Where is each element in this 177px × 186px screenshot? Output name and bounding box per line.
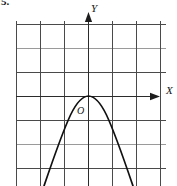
y-axis-label: Y <box>91 2 99 14</box>
x-axis-arrow-icon <box>150 93 160 100</box>
coordinate-plane: X Y O <box>0 0 177 186</box>
origin-label: O <box>77 105 84 116</box>
y-axis <box>85 12 92 186</box>
grid-emphasis-lines <box>16 21 166 186</box>
x-axis-label: X <box>165 84 174 96</box>
parabola-figure: 5. <box>0 0 177 186</box>
